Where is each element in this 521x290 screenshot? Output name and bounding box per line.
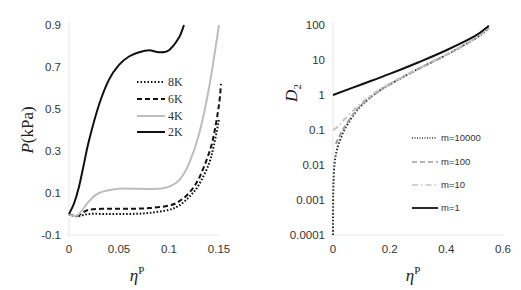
- legend-item-6k: 6K: [137, 92, 183, 106]
- y-tick-label: 0.01: [303, 159, 325, 171]
- svg-text:8K: 8K: [168, 75, 183, 89]
- right-x-tick-labels: 00.20.40.6: [330, 243, 511, 255]
- left-x-tick-labels: 00.050.10.15: [66, 243, 230, 255]
- y-tick-label: 10: [312, 54, 325, 66]
- left-chart: -0.10.10.30.50.70.9 00.050.10.15 P(kPa) …: [18, 19, 230, 285]
- x-tick-label: 0.05: [108, 243, 130, 255]
- right-legend: m=10000 m=100 m=10 m=1: [412, 132, 481, 213]
- y-tick-label: -0.1: [41, 229, 61, 241]
- x-tick-label: 0.4: [438, 243, 455, 255]
- series-m1: [333, 26, 489, 95]
- x-tick-label: 0: [330, 243, 336, 255]
- svg-text:2K: 2K: [168, 125, 183, 139]
- right-x-axis-title: ηP: [406, 264, 421, 285]
- legend-item-m1: m=1: [412, 202, 460, 213]
- y-tick-label: 0.7: [45, 61, 61, 73]
- legend-item-m100: m=100: [412, 156, 470, 167]
- y-tick-label: 0.001: [296, 194, 325, 206]
- y-tick-label: 0.5: [45, 103, 61, 115]
- right-chart: 0.00010.0010.010.1110100 00.20.40.6 D2 η…: [282, 19, 511, 285]
- left-series-lines: [69, 25, 221, 216]
- right-y-tick-labels: 0.00010.0010.010.1110100: [290, 19, 325, 241]
- series-2k: [69, 25, 184, 214]
- legend-item-m10: m=10: [412, 179, 465, 190]
- x-tick-label: 0: [66, 243, 72, 255]
- x-tick-label: 0.2: [382, 243, 398, 255]
- y-tick-label: 100: [306, 19, 325, 31]
- y-tick-label: 0.0001: [290, 229, 325, 241]
- y-tick-label: 0.1: [45, 187, 61, 199]
- legend-item-m10000: m=10000: [412, 132, 481, 143]
- y-tick-label: 0.1: [309, 124, 325, 136]
- y-tick-label: 1: [319, 89, 325, 101]
- right-series-lines: [333, 26, 489, 235]
- y-tick-label: 0.9: [45, 19, 61, 31]
- legend-item-8k: 8K: [137, 75, 183, 89]
- figure: -0.10.10.30.50.70.9 00.050.10.15 P(kPa) …: [0, 0, 521, 290]
- y-tick-label: 0.3: [45, 145, 61, 157]
- left-x-axis-title: ηP: [130, 264, 145, 285]
- svg-text:m=100: m=100: [441, 156, 470, 167]
- left-legend: 8K 6K 4K 2K: [137, 75, 183, 139]
- svg-text:6K: 6K: [168, 92, 183, 106]
- svg-text:m=10000: m=10000: [441, 132, 481, 143]
- right-y-axis-title: D2: [282, 84, 303, 103]
- x-tick-label: 0.1: [161, 243, 177, 255]
- legend-item-4k: 4K: [137, 109, 183, 123]
- svg-text:m=1: m=1: [441, 202, 460, 213]
- left-y-tick-labels: -0.10.10.30.50.70.9: [41, 19, 61, 241]
- svg-text:4K: 4K: [168, 109, 183, 123]
- x-tick-label: 0.6: [495, 243, 511, 255]
- x-tick-label: 0.15: [208, 243, 230, 255]
- svg-text:m=10: m=10: [441, 179, 465, 190]
- series-6k: [69, 84, 221, 216]
- legend-item-2k: 2K: [137, 125, 183, 139]
- series-m10: [333, 27, 489, 130]
- left-y-axis-title: P(kPa): [18, 106, 37, 154]
